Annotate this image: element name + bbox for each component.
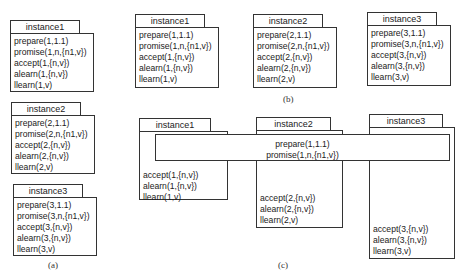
message-line: prepare(2,1.1): [257, 30, 333, 41]
message-line: accept(3,{n,v}): [373, 224, 451, 235]
instance-tab: instance2: [253, 14, 323, 28]
instance-tab: instance3: [369, 114, 443, 128]
instance-box: prepare(3,1.1) promise(3,n,{n1,v}) accep…: [367, 25, 451, 86]
instance-tab: instance2: [256, 117, 331, 131]
message-line: accept(3,{n,v}): [17, 222, 93, 233]
message-line: accept(3,{n,v}): [371, 50, 447, 61]
message-line: accept(2,{n,v}): [257, 52, 333, 63]
message-line: promise(1,n,{n1,v}): [139, 41, 215, 52]
instance-box: prepare(1,1.1) promise(1,n,{n1,v}) accep…: [10, 33, 94, 92]
message-line: llearn(1,v): [139, 74, 215, 85]
message-line: prepare(1,1.1): [14, 36, 90, 47]
message-line: promise(2,n,{n1,v}): [257, 41, 333, 52]
message-line: alearn(2,{n,v}): [260, 204, 339, 215]
message-line: llearn(2,v): [260, 215, 339, 226]
message-line: accept(2,{n,v}): [260, 193, 339, 204]
message-line: alearn(1,{n,v}): [143, 181, 224, 192]
caption-c: (c): [278, 260, 288, 270]
instance-tab: instance3: [13, 184, 83, 198]
instance-box: prepare(3,1.1) promise(3,n,{n1,v}) accep…: [13, 197, 97, 256]
message-line: alearn(3,{n,v}): [17, 233, 93, 244]
instance-tab: instance3: [367, 12, 437, 26]
message-line: accept(1,{n,v}): [139, 52, 215, 63]
message-line: prepare(1,1.1): [139, 30, 215, 41]
instance-box: prepare(1,1.1) promise(1,n,{n1,v}) accep…: [135, 27, 219, 88]
message-line: llearn(2,v): [257, 74, 333, 85]
message-line: accept(2,{n,v}): [15, 140, 91, 151]
message-line: promise(3,n,{n1,v}): [371, 39, 447, 50]
message-line: alearn(2,{n,v}): [257, 63, 333, 74]
message-line: accept(1,{n,v}): [14, 58, 90, 69]
message-line: prepare(1,1.1): [156, 139, 449, 150]
message-line: llearn(2,v): [15, 162, 91, 173]
message-line: prepare(2,1.1): [15, 118, 91, 129]
message-line: promise(3,n,{n1,v}): [17, 211, 93, 222]
message-line: promise(2,n,{n1,v}): [15, 129, 91, 140]
instance-tab: instance1: [135, 14, 205, 28]
message-line: llearn(3,v): [371, 72, 447, 83]
message-line: promise(1,n,{n1,v}): [156, 150, 449, 161]
instance-box: prepare(2,1.1) promise(2,n,{n1,v}) accep…: [253, 27, 337, 88]
message-line: alearn(2,{n,v}): [15, 151, 91, 162]
message-line: llearn(1,v): [143, 192, 224, 203]
message-line: prepare(3,1.1): [371, 28, 447, 39]
message-line: llearn(3,v): [373, 246, 451, 257]
message-line: alearn(3,{n,v}): [371, 61, 447, 72]
caption-a: (a): [48, 260, 58, 270]
message-line: prepare(3,1.1): [17, 200, 93, 211]
caption-b: (b): [283, 94, 294, 104]
message-line: llearn(1,v): [14, 80, 90, 91]
instance-tab: instance1: [10, 20, 80, 34]
message-line: alearn(1,{n,v}): [139, 63, 215, 74]
shared-messages-box: prepare(1,1.1) promise(1,n,{n1,v}): [155, 134, 450, 161]
instance-tab: instance2: [11, 102, 81, 116]
instance-tab: instance1: [139, 118, 211, 132]
instance-box: prepare(2,1.1) promise(2,n,{n1,v}) accep…: [11, 115, 95, 174]
message-line: alearn(1,{n,v}): [14, 69, 90, 80]
message-line: accept(1,{n,v}): [143, 170, 224, 181]
message-line: promise(1,n,{n1,v}): [14, 47, 90, 58]
message-line: alearn(3,{n,v}): [373, 235, 451, 246]
message-line: llearn(3,v): [17, 244, 93, 255]
